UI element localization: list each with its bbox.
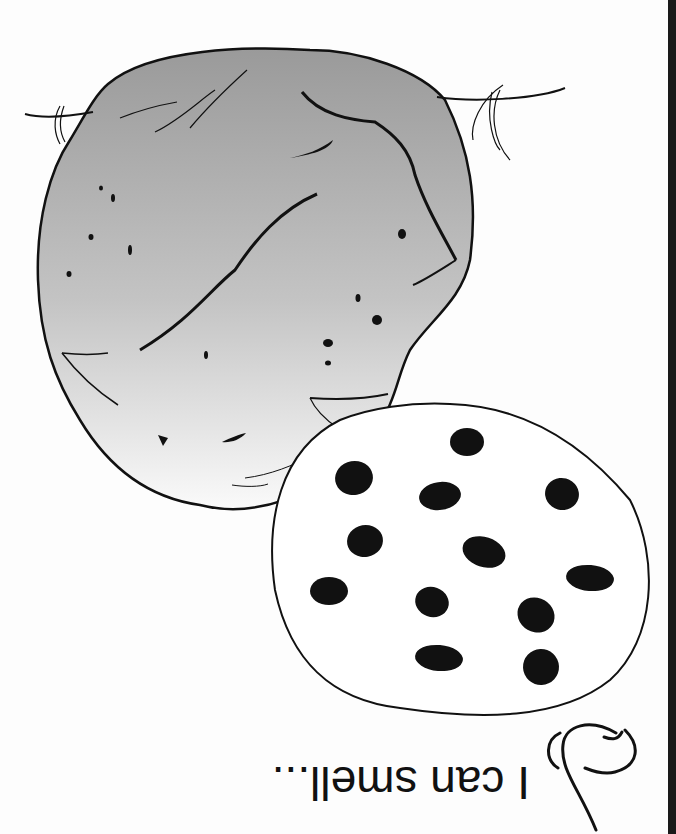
- worksheet-page: I can smell...: [0, 0, 676, 834]
- caption-text: I can smell...: [200, 753, 530, 813]
- cookie-icon: [272, 404, 649, 715]
- scan-edge-bar: [668, 0, 676, 834]
- worksheet-illustrations: [0, 0, 676, 834]
- nose-icon: [548, 725, 635, 830]
